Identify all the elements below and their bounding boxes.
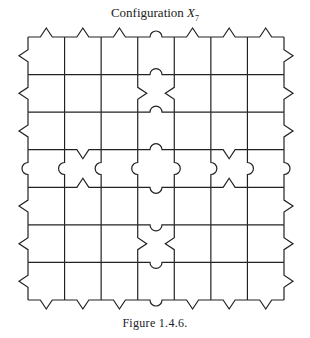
interior-horizontal-edge xyxy=(138,187,175,193)
interior-vertical-edge xyxy=(59,150,65,188)
right-border-edge xyxy=(284,150,290,188)
top-border-edge xyxy=(65,28,102,37)
top-border-edge xyxy=(174,28,211,37)
interior-horizontal-edge xyxy=(138,225,175,231)
top-border-edge xyxy=(211,28,248,37)
left-border-edge xyxy=(19,187,28,225)
interior-horizontal-edge xyxy=(211,178,248,187)
right-border-edge xyxy=(284,112,293,150)
bottom-border-edge xyxy=(247,300,284,309)
interior-horizontal-edge xyxy=(65,178,102,187)
interior-horizontal-edge xyxy=(65,150,102,159)
interior-horizontal-edge xyxy=(138,69,175,75)
bottom-border-edge xyxy=(28,300,65,309)
configuration-diagram xyxy=(0,0,310,338)
interior-horizontal-edge xyxy=(138,262,175,268)
bottom-border-edge xyxy=(211,300,248,309)
left-border-edge xyxy=(19,225,28,263)
left-border-edge xyxy=(19,112,28,150)
interior-vertical-edge xyxy=(165,225,174,263)
left-border-edge xyxy=(19,37,28,75)
interior-vertical-edge xyxy=(138,225,147,263)
interior-vertical-edge xyxy=(95,150,101,188)
right-border-edge xyxy=(284,225,293,263)
interior-horizontal-edge xyxy=(211,150,248,159)
interior-vertical-edge xyxy=(132,150,138,188)
left-border-edge xyxy=(19,262,28,300)
interior-vertical-edge xyxy=(211,150,217,188)
top-border-edge xyxy=(138,31,175,37)
bottom-border-edge xyxy=(101,300,138,309)
bottom-border-edge xyxy=(65,300,102,309)
interior-vertical-edge xyxy=(174,150,180,188)
right-border-edge xyxy=(284,262,293,300)
left-border-edge xyxy=(22,150,28,188)
right-border-edge xyxy=(284,187,293,225)
top-border-edge xyxy=(28,28,65,37)
bottom-border-edge xyxy=(174,300,211,309)
right-border-edge xyxy=(284,75,293,113)
figure-caption: Figure 1.4.6. xyxy=(0,316,310,331)
top-border-edge xyxy=(247,28,284,37)
interior-vertical-edge xyxy=(138,75,147,113)
left-border-edge xyxy=(19,75,28,113)
right-border-edge xyxy=(284,37,293,75)
interior-vertical-edge xyxy=(247,150,253,188)
interior-vertical-edge xyxy=(165,75,174,113)
top-border-edge xyxy=(101,28,138,37)
interior-horizontal-edge xyxy=(138,144,175,150)
bottom-border-edge xyxy=(138,300,175,306)
interior-horizontal-edge xyxy=(138,106,175,112)
